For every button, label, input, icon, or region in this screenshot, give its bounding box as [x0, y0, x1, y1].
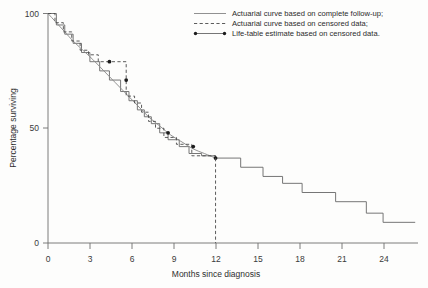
life-table-point [108, 60, 112, 64]
chart-legend: Actuarial curve based on complete follow… [194, 9, 383, 38]
x-axis: 0 3 6 9 12 15 18 21 24 Months since diag… [46, 243, 418, 279]
life-table-point [166, 131, 170, 135]
survival-chart: Actuarial curve based on complete follow… [0, 0, 428, 288]
life-table-marker-group [108, 60, 218, 160]
y-tick-label-100: 100 [25, 9, 39, 19]
legend-label-life-table: Life-table estimate based on censored da… [232, 29, 380, 38]
legend-label-complete-followup: Actuarial curve based on complete follow… [232, 9, 383, 18]
x-tick-label-9: 9 [172, 254, 177, 264]
plot-area [48, 14, 415, 244]
x-tick-label-0: 0 [46, 254, 51, 264]
y-tick-label-0: 0 [34, 238, 39, 248]
x-tick-label-21: 21 [337, 254, 347, 264]
legend-entry-life-table: Life-table estimate based on censored da… [194, 29, 380, 38]
chart-svg: Actuarial curve based on complete follow… [0, 0, 428, 288]
x-axis-title: Months since diagnosis [172, 269, 260, 279]
x-tick-label-18: 18 [295, 254, 305, 264]
life-table-point [124, 78, 128, 82]
x-tick-label-3: 3 [88, 254, 93, 264]
x-tick-label-12: 12 [211, 254, 221, 264]
series-life-table-estimate [48, 14, 415, 223]
legend-label-censored-actuarial: Actuarial curve based on censored data; [232, 19, 368, 28]
legend-entry-complete-followup: Actuarial curve based on complete follow… [194, 9, 383, 18]
x-tick-label-24: 24 [379, 254, 389, 264]
legend-dot-left-icon [194, 32, 197, 35]
x-tick-label-15: 15 [253, 254, 263, 264]
y-axis: 100 50 0 Percentage surviving [8, 9, 48, 248]
legend-dot-right-icon [223, 32, 226, 35]
life-table-point [191, 145, 195, 149]
y-axis-title: Percentage surviving [8, 88, 18, 168]
x-tick-label-6: 6 [130, 254, 135, 264]
legend-entry-censored-actuarial: Actuarial curve based on censored data; [194, 19, 368, 28]
y-tick-label-50: 50 [30, 123, 40, 133]
